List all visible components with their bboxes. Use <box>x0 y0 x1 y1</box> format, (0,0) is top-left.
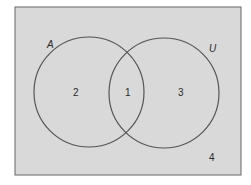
region-label-3: 3 <box>178 87 184 98</box>
set-label-a: A <box>46 39 54 50</box>
region-label-4: 4 <box>209 152 215 163</box>
venn-diagram: A U 2 1 3 4 <box>0 0 251 185</box>
region-label-1: 1 <box>125 87 131 98</box>
set-label-u: U <box>209 43 217 54</box>
region-label-2: 2 <box>73 87 79 98</box>
